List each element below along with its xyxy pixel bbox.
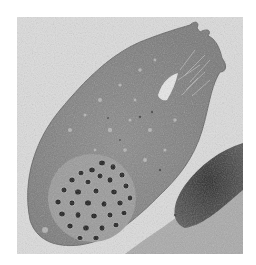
micrograph-image: [17, 17, 243, 254]
micrograph-frame: [17, 17, 243, 254]
